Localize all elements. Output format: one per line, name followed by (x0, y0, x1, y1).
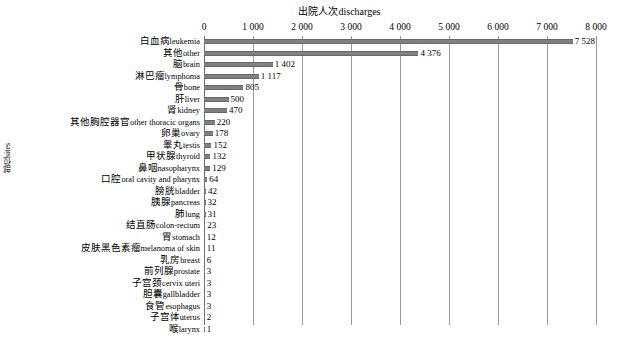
bar-row[interactable]: 其他胸腔器官other thoracic organs220 (0, 117, 619, 129)
bar[interactable] (204, 258, 205, 263)
x-tick-label: 3 000 (340, 22, 361, 32)
x-tick-label: 1 000 (242, 22, 263, 32)
bar-row[interactable]: 鼻咽nasopharynx129 (0, 163, 619, 175)
bar[interactable] (204, 212, 206, 217)
category-label-cn: 睾丸 (163, 140, 183, 150)
category-label-cn: 口腔 (101, 174, 121, 184)
bar[interactable] (204, 235, 205, 240)
category-label: 淋巴瘤lymphoma (0, 71, 200, 83)
bar-row[interactable]: 喉larynx1 (0, 324, 619, 336)
bar-row[interactable]: 子宫颈cervix uteri3 (0, 278, 619, 290)
bar-value-label: 805 (245, 82, 259, 94)
category-label: 子宫颈cervix uteri (0, 278, 200, 290)
bar-value-label: 64 (209, 174, 218, 186)
category-label-en: stomach (172, 233, 200, 242)
bar-value-label: 12 (207, 232, 216, 244)
bar[interactable] (204, 166, 210, 171)
category-label-en: gallbladder (163, 290, 200, 299)
category-label: 胆囊gallbladder (0, 289, 200, 301)
category-label-cn: 前列腺 (144, 266, 174, 276)
category-label-cn: 其他胸腔器官 (70, 117, 130, 127)
bar[interactable] (204, 39, 573, 44)
category-label-en: larynx (179, 325, 200, 334)
bar-row[interactable]: 子宫体uterus2 (0, 312, 619, 324)
category-label-cn: 肺 (175, 209, 185, 219)
bar[interactable] (204, 143, 211, 148)
bar-row[interactable]: 肝liver500 (0, 94, 619, 106)
category-label-en: nasopharynx (158, 164, 200, 173)
bar[interactable] (204, 223, 205, 228)
category-label: 骨bone (0, 82, 200, 94)
bar-value-label: 129 (212, 163, 226, 175)
bar[interactable] (204, 189, 206, 194)
bar-row[interactable]: 膀胱bladder42 (0, 186, 619, 198)
bar[interactable] (204, 51, 418, 56)
bar-row[interactable]: 胃stomach12 (0, 232, 619, 244)
bar[interactable] (204, 74, 259, 79)
bar[interactable] (204, 246, 205, 251)
bar-row[interactable]: 甲状腺thyroid132 (0, 151, 619, 163)
bar-row[interactable]: 其他other4 376 (0, 48, 619, 60)
bar[interactable] (204, 304, 205, 309)
category-label-en: esophagus (165, 302, 200, 311)
bar-row[interactable]: 睾丸testis152 (0, 140, 619, 152)
category-label: 肾kidney (0, 105, 200, 117)
x-tick-label: 4 000 (389, 22, 410, 32)
bar-row[interactable]: 骨bone805 (0, 82, 619, 94)
category-label-en: brain (183, 60, 200, 69)
bar-value-label: 2 (207, 312, 212, 324)
bar[interactable] (204, 85, 243, 90)
category-label-cn: 胃 (162, 232, 172, 242)
category-label-en: other thoracic organs (130, 118, 200, 127)
bar[interactable] (204, 177, 207, 182)
bar-row[interactable]: 脑brain1 402 (0, 59, 619, 71)
category-label-cn: 肝 (175, 94, 185, 104)
bar[interactable] (204, 292, 205, 297)
bar-value-label: 152 (213, 140, 227, 152)
category-label-cn: 皮肤黑色素瘤 (81, 243, 141, 253)
bar[interactable] (204, 131, 213, 136)
bar[interactable] (204, 315, 205, 320)
bar-row[interactable]: 前列腺prostate3 (0, 266, 619, 278)
bar-row[interactable]: 食管esophagus3 (0, 301, 619, 313)
bar[interactable] (204, 154, 210, 159)
x-tick-label: 2 000 (291, 22, 312, 32)
bar-value-label: 132 (212, 151, 226, 163)
bar-row[interactable]: 胰腺pancreas32 (0, 197, 619, 209)
bar-row[interactable]: 结直肠colon-rectum23 (0, 220, 619, 232)
bar[interactable] (204, 120, 215, 125)
category-label: 结直肠colon-rectum (0, 220, 200, 232)
category-label: 喉larynx (0, 324, 200, 336)
bar-value-label: 11 (207, 243, 216, 255)
bar-row[interactable]: 皮肤黑色素瘤melanoma of skin11 (0, 243, 619, 255)
bar-row[interactable]: 肾kidney470 (0, 105, 619, 117)
category-label-en: melanoma of skin (141, 244, 200, 253)
bar[interactable] (204, 97, 229, 102)
category-label-cn: 膀胱 (155, 186, 175, 196)
bar-row[interactable]: 卵巢ovary178 (0, 128, 619, 140)
category-label-en: other (183, 49, 200, 58)
category-label-en: lymphoma (165, 72, 201, 81)
bar[interactable] (204, 108, 227, 113)
bar-row[interactable]: 胆囊gallbladder3 (0, 289, 619, 301)
bar-row[interactable]: 乳房breast6 (0, 255, 619, 267)
category-label: 鼻咽nasopharynx (0, 163, 200, 175)
category-label: 皮肤黑色素瘤melanoma of skin (0, 243, 200, 255)
bar-row[interactable]: 白血病leukemia7 528 (0, 36, 619, 48)
category-label: 其他other (0, 48, 200, 60)
category-label: 膀胱bladder (0, 186, 200, 198)
x-tick-label: 7 000 (536, 22, 557, 32)
category-label-en: ovary (181, 129, 200, 138)
bar[interactable] (204, 281, 205, 286)
category-label: 白血病leukemia (0, 36, 200, 48)
bar[interactable] (204, 269, 205, 274)
bar-row[interactable]: 口腔oral cavity and pharynx64 (0, 174, 619, 186)
bar-value-label: 31 (208, 209, 217, 221)
bar-row[interactable]: 肺lung31 (0, 209, 619, 221)
bar[interactable] (204, 200, 206, 205)
category-label-cn: 食管 (145, 301, 165, 311)
bar[interactable] (204, 62, 273, 67)
bar[interactable] (204, 327, 205, 332)
category-label-cn: 脑 (173, 59, 183, 69)
bar-row[interactable]: 淋巴瘤lymphoma1 117 (0, 71, 619, 83)
